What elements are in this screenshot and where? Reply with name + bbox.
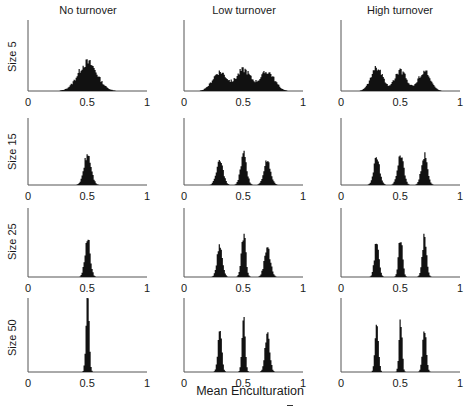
x-tick-label: 0.5 [393,377,408,389]
row-label-size-5: Size 5 [6,41,18,72]
row-label-size-15: Size 15 [6,133,18,170]
row-label-size-50: Size 50 [6,319,18,356]
x-tick-label: 1 [457,377,463,389]
row-label-size-25: Size 25 [6,223,18,260]
column-title-high-turnover: High turnover [320,4,470,16]
x-axis-label: Mean Enculturation [180,384,320,398]
column-title-low-turnover: Low turnover [164,4,324,16]
decorative-dash [287,405,293,406]
column-title-no-turnover: No turnover [8,4,168,16]
x-tick-label: 0 [338,377,344,389]
